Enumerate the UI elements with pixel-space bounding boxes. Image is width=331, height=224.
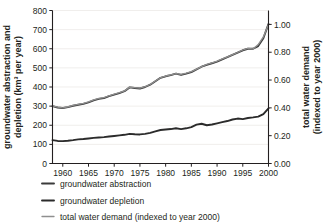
series-line-0 [53,24,269,108]
y-axis-right-title-line1: total water demand [301,46,311,128]
x-tick-label: 1975 [130,168,149,178]
y2-tick-label: 0.00 [274,159,291,169]
legend-label-0: groundwater abstraction [60,179,151,189]
x-tick-label: 1970 [105,168,124,178]
y-axis-right-ticks: 0.000.200.400.600.801.00 [269,20,291,169]
legend-label-2: total water demand (indexed to year 2000… [60,212,220,222]
y-tick-label: 0 [42,159,47,169]
y-tick-label: 100 [33,139,47,149]
y2-tick-label: 0.60 [274,75,291,85]
y-axis-left-title-line2: depletion (km³ per year) [13,36,23,138]
y-tick-label: 800 [33,6,47,16]
y2-tick-label: 0.80 [274,47,291,57]
x-tick-label: 1985 [182,168,201,178]
x-tick-label: 1965 [79,168,98,178]
x-axis-ticks: 196019651970197519801985199019952000 [53,164,278,179]
series-line-2 [53,24,269,107]
x-tick-label: 1960 [53,168,72,178]
y-axis-left-ticks: 0100200300400500600700800 [33,6,53,169]
y2-tick-label: 0.40 [274,103,291,113]
y-tick-label: 700 [33,25,47,35]
legend-label-1: groundwater depletion [60,196,144,206]
y2-tick-label: 1.00 [274,20,291,30]
x-tick-label: 1995 [233,168,252,178]
chart-figure: 196019651970197519801985199019952000 010… [0,0,331,224]
y-tick-label: 500 [33,63,47,73]
y-tick-label: 200 [33,120,47,130]
series-layer [53,24,269,141]
y-tick-label: 600 [33,44,47,54]
x-tick-label: 1980 [156,168,175,178]
chart-legend: groundwater abstractiongroundwater deple… [42,179,220,222]
y-tick-label: 400 [33,82,47,92]
y-tick-label: 300 [33,101,47,111]
y2-tick-label: 0.20 [274,131,291,141]
series-line-1 [53,108,269,141]
y-axis-left-title-line1: groundwater abstraction and [2,25,12,149]
y-axis-right-title-line2: (indexed to year 2000) [312,40,322,135]
line-chart: 196019651970197519801985199019952000 010… [0,0,331,224]
x-tick-label: 2000 [259,168,278,178]
x-tick-label: 1990 [208,168,227,178]
